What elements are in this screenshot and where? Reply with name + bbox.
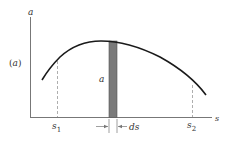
s1-label: s1 <box>52 121 61 134</box>
ds-label: ds <box>129 122 140 132</box>
panel-label: (a) <box>9 58 21 68</box>
ds-left-arrowhead <box>104 125 108 128</box>
strip-label: a <box>99 74 104 84</box>
diagram-canvas: a (a) a s s1 s2 ds <box>0 0 225 141</box>
y-axis-label: a <box>28 7 33 17</box>
x-axis-label: s <box>215 114 219 123</box>
curve-a-vs-s <box>42 41 206 95</box>
strip-ds <box>109 41 117 118</box>
s2-label: s2 <box>187 120 196 133</box>
ds-right-arrowhead <box>118 125 122 128</box>
